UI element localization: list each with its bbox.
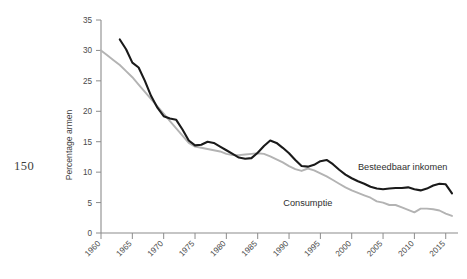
x-tick-group: 1960196519701975198019851990199520002005… — [83, 233, 447, 258]
y-tick-label: 20 — [83, 107, 93, 116]
series-group — [101, 39, 452, 215]
x-tick-label: 1995 — [303, 239, 323, 259]
x-tick-label: 1965 — [115, 239, 135, 259]
y-tick-label: 15 — [83, 138, 93, 147]
y-axis-title-group: Percentage armen — [64, 109, 74, 180]
x-tick-label: 1980 — [209, 239, 229, 259]
y-tick-label: 10 — [83, 168, 93, 177]
x-tick-label: 1970 — [146, 239, 166, 259]
y-tick-label: 0 — [87, 229, 92, 238]
x-tick-label: 2015 — [428, 239, 448, 259]
x-tick-label: 2005 — [365, 239, 385, 259]
series-label-besteedbaar-inkomen: Besteedbaar inkomen — [358, 162, 447, 172]
series-label-consumptie: Consumptie — [283, 198, 332, 208]
y-tick-label: 35 — [83, 16, 93, 25]
x-tick-label: 1990 — [271, 239, 291, 259]
axes-layer — [101, 20, 458, 233]
x-tick-label: 2000 — [334, 239, 354, 259]
y-tick-group: 05101520253035 — [83, 16, 101, 238]
x-tick-label: 1960 — [83, 239, 103, 259]
x-tick-label: 1985 — [240, 239, 260, 259]
x-tick-label: 2010 — [397, 239, 417, 259]
series-line-consumptie — [101, 50, 452, 216]
figure-root: 150 05101520253035 196019651970197519801… — [0, 0, 467, 279]
y-tick-label: 30 — [83, 46, 93, 55]
x-tick-label: 1975 — [177, 239, 197, 259]
poverty-line-chart: 05101520253035 1960196519701975198019851… — [0, 0, 467, 279]
y-tick-label: 5 — [87, 199, 92, 208]
y-axis-title: Percentage armen — [64, 109, 74, 180]
y-tick-label: 25 — [83, 77, 93, 86]
